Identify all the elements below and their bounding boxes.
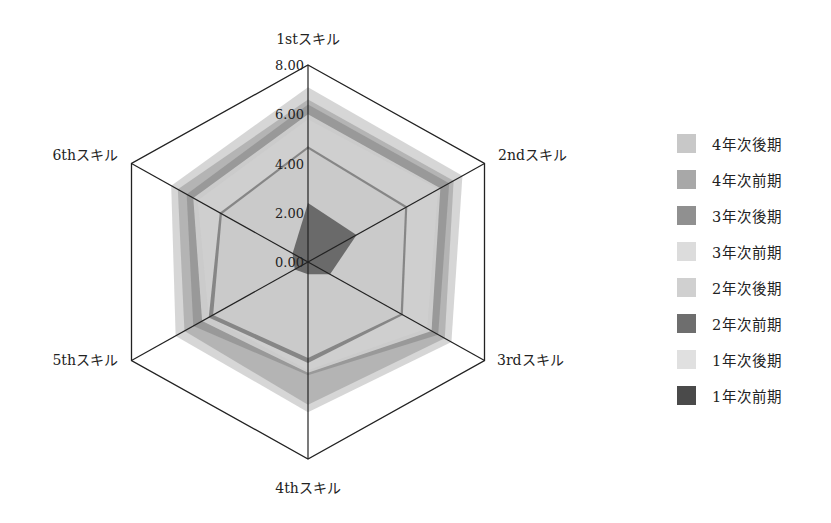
axis-label: 2ndスキル bbox=[498, 147, 567, 163]
legend-item: 2年次前期 bbox=[677, 305, 782, 341]
legend-swatch bbox=[677, 170, 696, 189]
legend-label: 2年次後期 bbox=[712, 277, 782, 298]
legend-item: 3年次前期 bbox=[677, 233, 782, 269]
legend-item: 2年次後期 bbox=[677, 269, 782, 305]
radial-tick-label: 2.00 bbox=[275, 206, 304, 221]
legend-label: 1年次後期 bbox=[712, 349, 782, 370]
axis-label: 1stスキル bbox=[276, 31, 340, 47]
legend-item: 1年次前期 bbox=[677, 377, 782, 413]
legend-swatch bbox=[677, 386, 696, 405]
legend-label: 3年次前期 bbox=[712, 241, 782, 262]
legend-label: 3年次後期 bbox=[712, 205, 782, 226]
radial-tick-label: 0.00 bbox=[275, 255, 304, 270]
axis-label: 5thスキル bbox=[52, 352, 118, 368]
axis-label: 6thスキル bbox=[52, 147, 118, 163]
legend: 4年次後期 4年次前期 3年次後期 3年次前期 2年次後期 2年次前期 1年次後… bbox=[677, 125, 782, 413]
legend-swatch bbox=[677, 350, 696, 369]
series-polygons bbox=[171, 87, 462, 412]
legend-swatch bbox=[677, 206, 696, 225]
legend-item: 4年次後期 bbox=[677, 125, 782, 161]
legend-item: 4年次前期 bbox=[677, 161, 782, 197]
legend-label: 4年次前期 bbox=[712, 169, 782, 190]
radial-tick-label: 6.00 bbox=[275, 107, 304, 122]
legend-swatch bbox=[677, 278, 696, 297]
legend-swatch bbox=[677, 134, 696, 153]
axis-label: 4thスキル bbox=[275, 480, 341, 496]
legend-swatch bbox=[677, 314, 696, 333]
legend-label: 4年次後期 bbox=[712, 133, 782, 154]
legend-item: 3年次後期 bbox=[677, 197, 782, 233]
radial-tick-label: 8.00 bbox=[275, 58, 304, 73]
legend-label: 1年次前期 bbox=[712, 385, 782, 406]
axis-label: 3rdスキル bbox=[497, 352, 564, 368]
legend-swatch bbox=[677, 242, 696, 261]
legend-item: 1年次後期 bbox=[677, 341, 782, 377]
legend-label: 2年次前期 bbox=[712, 313, 782, 334]
radial-tick-label: 4.00 bbox=[275, 157, 304, 172]
